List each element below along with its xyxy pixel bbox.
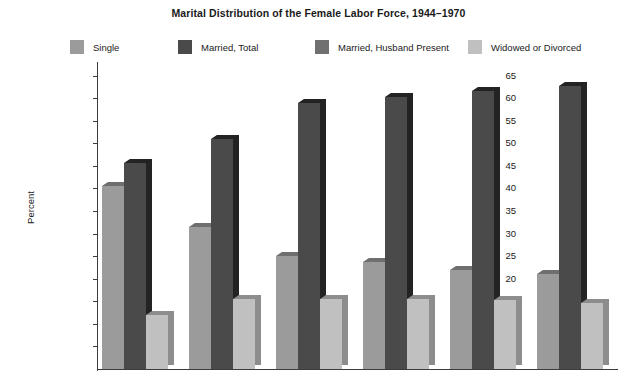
bar[interactable] [102, 186, 124, 369]
bar-face [472, 91, 494, 369]
bar-side-face [342, 295, 348, 365]
bar-group [276, 62, 363, 369]
chart-title: Marital Distribution of the Female Labor… [0, 7, 637, 19]
bar[interactable] [363, 262, 385, 369]
bar[interactable] [211, 139, 233, 369]
y-axis-label-text: Percent [25, 191, 36, 224]
y-axis-tick [93, 98, 98, 99]
legend-swatch-icon [315, 40, 329, 54]
bar-face [102, 186, 124, 369]
bar-face [581, 303, 603, 369]
bar-group [537, 62, 624, 369]
bar-group [363, 62, 450, 369]
bar[interactable] [537, 274, 559, 369]
y-axis-tick [93, 121, 98, 122]
bar[interactable] [494, 300, 516, 369]
bar-face [211, 139, 233, 369]
bar[interactable] [276, 256, 298, 369]
bar-face [450, 270, 472, 369]
legend-label: Widowed or Divorced [491, 42, 581, 53]
bar[interactable] [233, 299, 255, 369]
bar-group [102, 62, 189, 369]
legend-swatch-icon [178, 40, 192, 54]
legend-swatch-icon [468, 40, 482, 54]
bar-face [385, 97, 407, 369]
chart-legend: SingleMarried, TotalMarried, Husband Pre… [70, 36, 615, 58]
plot-area: 6560555045403530252015105 [98, 62, 618, 369]
y-axis-tick [93, 346, 98, 347]
y-axis-tick [93, 166, 98, 167]
bar-face [189, 227, 211, 369]
legend-item[interactable]: Married, Husband Present [315, 36, 449, 58]
bar-side-face [255, 295, 261, 365]
bar-side-face [516, 296, 522, 365]
y-axis-tick [93, 211, 98, 212]
bar-face [537, 274, 559, 369]
bar-group [450, 62, 537, 369]
bar-face [363, 262, 385, 369]
bar[interactable] [298, 103, 320, 369]
bar-face [276, 256, 298, 369]
y-axis-tick [93, 234, 98, 235]
x-axis-line [97, 369, 618, 370]
bar-side-face [168, 311, 174, 365]
y-axis-tick [93, 324, 98, 325]
legend-label: Single [93, 42, 119, 53]
bar[interactable] [581, 303, 603, 369]
legend-swatch-icon [70, 40, 84, 54]
bar[interactable] [472, 91, 494, 369]
bar-group [189, 62, 276, 369]
bar-face [298, 103, 320, 369]
bar[interactable] [559, 86, 581, 369]
bar[interactable] [407, 299, 429, 369]
chart-figure: Marital Distribution of the Female Labor… [0, 0, 637, 389]
bar-face [494, 300, 516, 369]
y-axis-tick [93, 76, 98, 77]
bar[interactable] [124, 163, 146, 369]
bar-face [407, 299, 429, 369]
bar-face [146, 315, 168, 369]
y-axis-tick [93, 256, 98, 257]
bar-side-face [603, 299, 609, 365]
legend-item[interactable]: Single [70, 36, 119, 58]
bar[interactable] [450, 270, 472, 369]
bar[interactable] [320, 299, 342, 369]
bar-face [320, 299, 342, 369]
bar[interactable] [146, 315, 168, 369]
legend-label: Married, Total [201, 42, 258, 53]
legend-item[interactable]: Widowed or Divorced [468, 36, 581, 58]
y-axis-tick [93, 301, 98, 302]
y-axis-tick [93, 143, 98, 144]
y-axis-label: Percent [30, 180, 44, 240]
bar-face [559, 86, 581, 369]
y-axis-tick [93, 279, 98, 280]
bar[interactable] [189, 227, 211, 369]
legend-item[interactable]: Married, Total [178, 36, 258, 58]
y-axis-tick [93, 188, 98, 189]
bar[interactable] [385, 97, 407, 369]
bar-side-face [429, 295, 435, 365]
bar-face [124, 163, 146, 369]
legend-label: Married, Husband Present [338, 42, 449, 53]
bar-face [233, 299, 255, 369]
